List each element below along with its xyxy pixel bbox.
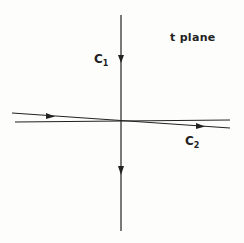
c2-name: C [185, 134, 194, 148]
c2-arrow-right [196, 123, 205, 129]
t-plane-diagram: t plane C1 C2 [0, 0, 244, 243]
c1-arrow-upper [118, 55, 124, 63]
c1-subscript: 1 [103, 59, 109, 68]
c1-arrow-lower [118, 166, 124, 175]
contour-c2-label: C2 [185, 134, 199, 148]
plane-label: t plane [170, 31, 216, 44]
contour-c1-label: C1 [94, 52, 108, 66]
c2-subscript: 2 [194, 141, 200, 150]
c1-name: C [94, 52, 103, 66]
